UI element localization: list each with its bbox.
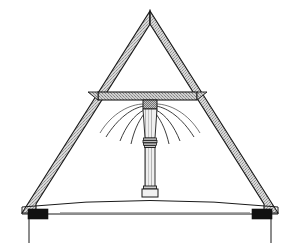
post-ring-mouldings bbox=[143, 138, 157, 148]
roof-truss-diagram: Hammer-beam / king-post roof truss cross… bbox=[0, 0, 300, 250]
post-base bbox=[142, 189, 158, 197]
collar-beam-group bbox=[88, 92, 207, 100]
wall-plate-left bbox=[28, 209, 48, 219]
figure-root: Hammer-beam / king-post roof truss cross… bbox=[0, 0, 300, 250]
post-shaft-lower bbox=[145, 148, 155, 190]
post-capital bbox=[143, 100, 157, 109]
collar-beam bbox=[98, 92, 197, 100]
post-shaft-upper bbox=[143, 109, 157, 138]
wall-plate-right bbox=[252, 209, 272, 219]
